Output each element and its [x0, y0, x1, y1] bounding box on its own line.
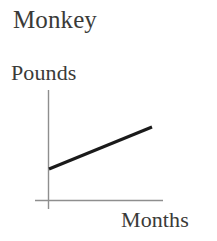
chart-figure: Monkey Pounds Months [0, 0, 217, 241]
plot-area [0, 0, 217, 241]
data-line-monkey-weight [49, 127, 152, 169]
